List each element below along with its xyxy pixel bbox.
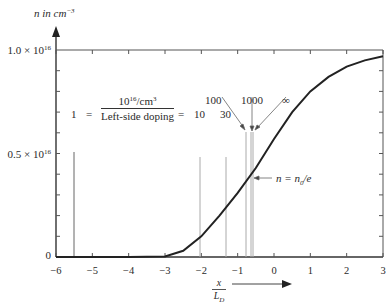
x-tick-label: −2 bbox=[196, 265, 207, 276]
x-tick-label: −3 bbox=[159, 265, 170, 276]
x-tick-label: −5 bbox=[87, 265, 98, 276]
x-tick-label: 3 bbox=[380, 265, 385, 276]
x-tick-label: −1 bbox=[232, 265, 243, 276]
annotation-n-equals-n0-over-e: n = n0/e bbox=[276, 173, 311, 187]
y-label-zero: 0 bbox=[46, 249, 52, 261]
ratio-label-30: 30 bbox=[220, 109, 231, 120]
ratio-label-infinity: ∞ bbox=[282, 95, 290, 106]
equals-sign-1: = bbox=[86, 109, 92, 120]
concentration-curve bbox=[56, 56, 383, 257]
chart-canvas bbox=[0, 0, 389, 305]
doping-ratio-fraction: 1016/cm3 Left-side doping bbox=[101, 95, 174, 122]
equals-sign-2: = bbox=[178, 109, 184, 120]
ratio-label-100: 100 bbox=[205, 95, 222, 106]
x-tick-label: −6 bbox=[50, 265, 61, 276]
label-arrows bbox=[222, 97, 286, 180]
y-label-top: 1.0 × 1016 bbox=[8, 44, 51, 56]
doping-lines bbox=[74, 132, 253, 257]
ratio-label-1000: 1000 bbox=[241, 95, 263, 106]
x-tick-label: 1 bbox=[308, 265, 313, 276]
y-axis-arrow-icon bbox=[52, 26, 60, 37]
ratio-label-10: 10 bbox=[194, 109, 205, 120]
x-tick-label: 2 bbox=[344, 265, 349, 276]
y-label-mid: 0.5 × 1016 bbox=[8, 148, 51, 160]
y-axis-title: n in cm−3 bbox=[34, 8, 75, 19]
ratio-label-1: 1 bbox=[71, 109, 77, 120]
x-direction-arrow-icon bbox=[282, 280, 292, 288]
axis-ticks bbox=[56, 50, 383, 257]
x-axis-title: x LD bbox=[212, 278, 226, 304]
x-tick-label: −4 bbox=[123, 265, 134, 276]
x-tick-label: 0 bbox=[271, 265, 276, 276]
